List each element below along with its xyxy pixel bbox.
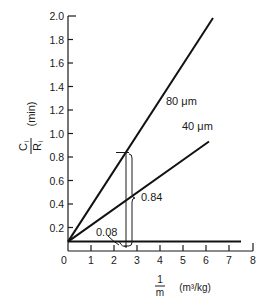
svg-text:8: 8 <box>250 254 256 266</box>
chart: 2.0 1.8 1.6 1.4 1.2 1.0 0.8 0.6 0.4 0.2 … <box>0 0 267 306</box>
svg-text:1.6: 1.6 <box>49 57 64 69</box>
annotations: 80 μm 40 μm 0.84 0.08 <box>96 95 213 238</box>
svg-text:0: 0 <box>61 254 67 266</box>
svg-text:i: i <box>23 140 30 142</box>
svg-text:4: 4 <box>157 254 163 266</box>
svg-text:1.2: 1.2 <box>49 104 64 116</box>
svg-text:1.8: 1.8 <box>49 34 64 46</box>
svg-text:m: m <box>156 287 164 298</box>
label-0-08: 0.08 <box>96 226 117 238</box>
label-0-84: 0.84 <box>141 191 162 203</box>
y-axis <box>68 16 76 251</box>
series-lines <box>68 18 241 242</box>
svg-text:0.8: 0.8 <box>49 151 64 163</box>
x-axis-label: 1 m (m³/kg) <box>155 274 211 298</box>
svg-text:2.0: 2.0 <box>49 10 64 22</box>
svg-text:0.4: 0.4 <box>49 198 64 210</box>
label-80um: 80 μm <box>166 95 197 107</box>
svg-text:(min): (min) <box>25 101 37 126</box>
x-tick-labels: 0 1 2 3 4 5 6 7 8 <box>61 254 256 266</box>
svg-text:3: 3 <box>134 254 140 266</box>
bracket-0-84 <box>116 153 135 249</box>
x-axis <box>68 243 253 251</box>
svg-text:0.6: 0.6 <box>49 175 64 187</box>
y-tick-labels: 2.0 1.8 1.6 1.4 1.2 1.0 0.8 0.6 0.4 0.2 <box>49 10 64 234</box>
svg-text:7: 7 <box>226 254 232 266</box>
svg-text:(m³/kg): (m³/kg) <box>179 282 211 293</box>
svg-text:1.4: 1.4 <box>49 81 64 93</box>
svg-text:1.0: 1.0 <box>49 128 64 140</box>
svg-text:R: R <box>31 143 43 151</box>
svg-text:C: C <box>17 143 29 151</box>
label-40um: 40 μm <box>182 120 213 132</box>
svg-text:6: 6 <box>203 254 209 266</box>
svg-text:i: i <box>37 140 44 142</box>
y-axis-label: C i R i (min) <box>17 101 44 154</box>
series-40um-line <box>68 142 209 242</box>
svg-text:5: 5 <box>180 254 186 266</box>
svg-text:1: 1 <box>88 254 94 266</box>
svg-text:1: 1 <box>157 274 163 285</box>
svg-text:0.2: 0.2 <box>49 222 64 234</box>
svg-text:2: 2 <box>111 254 117 266</box>
